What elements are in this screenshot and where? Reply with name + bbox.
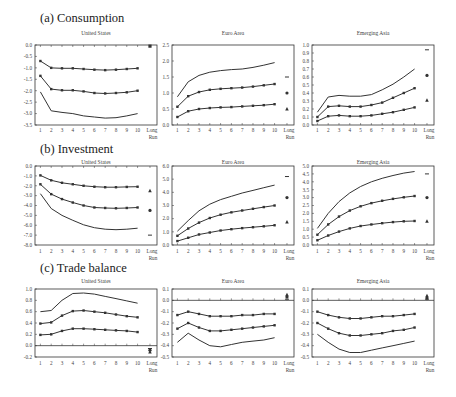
y-tick-label: 0.0 — [303, 122, 310, 128]
data-point-marker-icon — [115, 207, 117, 209]
data-point-marker-icon — [219, 106, 221, 108]
y-tick-label: -0.2 — [24, 354, 33, 360]
data-point-marker-icon — [93, 68, 95, 70]
y-tick-label: 1.5 — [303, 218, 310, 224]
data-point-marker-icon — [176, 314, 178, 316]
x-tick-label: 4 — [348, 248, 351, 254]
x-tick-label: 2 — [187, 127, 190, 133]
panel-title: Emerging Asia — [357, 159, 390, 165]
data-point-marker-icon — [39, 322, 41, 324]
data-point-marker-icon — [359, 317, 361, 319]
data-point-marker-icon — [370, 316, 372, 318]
square-marker-icon — [148, 45, 151, 48]
data-point-marker-icon — [198, 221, 200, 223]
panel-title: Emerging Asia — [357, 30, 390, 36]
data-point-marker-icon — [72, 89, 74, 91]
data-point-marker-icon — [82, 327, 84, 329]
data-point-marker-icon — [82, 68, 84, 70]
x-tick-label: 9 — [402, 360, 405, 366]
triangle-marker-icon — [285, 107, 289, 111]
data-point-marker-icon — [252, 208, 254, 210]
series-line — [177, 63, 274, 97]
y-tick-label: 1.0 — [163, 90, 170, 96]
x-tick-long: Long — [147, 248, 158, 254]
x-tick-label: 5 — [82, 360, 85, 366]
x-tick-label: 1 — [39, 127, 42, 133]
x-tick-run: Run — [426, 255, 435, 261]
data-point-marker-icon — [316, 310, 318, 312]
y-tick-label: 2.5 — [303, 202, 310, 208]
x-tick-run: Run — [149, 255, 158, 261]
data-point-marker-icon — [176, 116, 178, 118]
data-point-marker-icon — [82, 204, 84, 206]
data-point-marker-icon — [50, 321, 52, 323]
star-marker-icon — [425, 196, 428, 199]
data-point-marker-icon — [104, 312, 106, 314]
x-tick-label: 1 — [316, 248, 319, 254]
data-point-marker-icon — [219, 88, 221, 90]
data-point-marker-icon — [370, 333, 372, 335]
data-point-marker-icon — [403, 220, 405, 222]
y-tick-label: -0.2 — [301, 320, 310, 326]
y-tick-label: -3.0 — [24, 192, 33, 198]
data-point-marker-icon — [209, 330, 211, 332]
y-tick-label: -4.0 — [24, 202, 33, 208]
y-tick-label: 0.3 — [303, 98, 310, 104]
x-tick-label: 2 — [50, 127, 53, 133]
y-tick-label: 4.5 — [303, 171, 310, 177]
x-tick-label: 4 — [71, 127, 74, 133]
y-tick-label: -3.5 — [24, 122, 33, 128]
x-tick-run: Run — [286, 134, 295, 140]
x-tick-label: 5 — [359, 360, 362, 366]
x-tick-label: 4 — [348, 127, 351, 133]
series-line — [177, 323, 274, 331]
panel-euro-area: Euro Area6.05.04.03.02.01.00.01234567891… — [163, 159, 295, 261]
y-tick-label: 1.0 — [303, 226, 310, 232]
x-tick-label: 3 — [338, 248, 341, 254]
data-point-marker-icon — [359, 115, 361, 117]
data-point-marker-icon — [392, 330, 394, 332]
y-tick-label: 1.5 — [163, 74, 170, 80]
data-point-marker-icon — [104, 92, 106, 94]
series-line — [177, 206, 274, 236]
x-tick-label: 6 — [230, 248, 233, 254]
data-point-marker-icon — [413, 87, 415, 89]
data-point-marker-icon — [50, 88, 52, 90]
data-point-marker-icon — [230, 211, 232, 213]
y-tick-label: 0.4 — [303, 90, 310, 96]
data-point-marker-icon — [413, 220, 415, 222]
x-tick-label: 7 — [241, 127, 244, 133]
data-point-marker-icon — [403, 329, 405, 331]
y-tick-label: -1.0 — [24, 65, 33, 71]
x-tick-long: Long — [284, 360, 295, 366]
data-point-marker-icon — [316, 120, 318, 122]
data-point-marker-icon — [50, 67, 52, 69]
data-point-marker-icon — [273, 224, 275, 226]
data-point-marker-icon — [230, 87, 232, 89]
x-tick-label: 8 — [392, 248, 395, 254]
data-point-marker-icon — [115, 68, 117, 70]
x-tick-label: 8 — [252, 127, 255, 133]
data-point-marker-icon — [209, 231, 211, 233]
x-tick-label: 3 — [198, 127, 201, 133]
data-point-marker-icon — [219, 229, 221, 231]
y-tick-label: 1.0 — [26, 286, 33, 292]
data-point-marker-icon — [72, 67, 74, 69]
data-point-marker-icon — [273, 204, 275, 206]
y-tick-label: -7.0 — [24, 232, 33, 238]
y-tick-label: -2.5 — [24, 99, 33, 105]
data-point-marker-icon — [338, 230, 340, 232]
x-tick-label: 6 — [93, 127, 96, 133]
data-point-marker-icon — [209, 89, 211, 91]
data-point-marker-icon — [104, 186, 106, 188]
x-tick-run: Run — [286, 367, 295, 373]
data-point-marker-icon — [252, 105, 254, 107]
data-point-marker-icon — [349, 209, 351, 211]
y-tick-label: -6.0 — [24, 222, 33, 228]
data-point-marker-icon — [273, 313, 275, 315]
data-point-marker-icon — [273, 103, 275, 105]
x-tick-label: 5 — [219, 248, 222, 254]
data-point-marker-icon — [136, 316, 138, 318]
data-point-marker-icon — [413, 326, 415, 328]
data-point-marker-icon — [126, 68, 128, 70]
